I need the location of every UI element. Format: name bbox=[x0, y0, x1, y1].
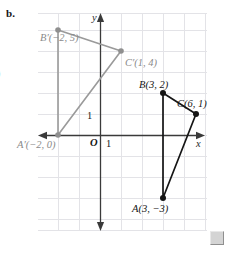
label-A: A(3, −3) bbox=[132, 204, 168, 215]
y-axis-label: y bbox=[92, 13, 97, 24]
vertex-B bbox=[160, 90, 166, 96]
label-C-prime: C′(1, 4) bbox=[125, 58, 157, 69]
vertex-A-prime bbox=[55, 132, 61, 138]
label-B-prime: B′(−2, 5) bbox=[40, 33, 79, 44]
corner-resize-handle-icon bbox=[210, 231, 224, 245]
label-C: C(6, 1) bbox=[177, 99, 207, 110]
x-unit-tick-label: 1 bbox=[106, 139, 111, 150]
vertex-A bbox=[160, 195, 166, 201]
vertex-C bbox=[193, 111, 199, 117]
origin-label: O bbox=[90, 138, 98, 149]
label-A-prime: A′(−2, 0) bbox=[17, 140, 56, 151]
x-axis-label: x bbox=[196, 139, 201, 150]
coordinate-plane-svg bbox=[0, 0, 233, 254]
y-unit-tick-label: 1 bbox=[87, 111, 92, 122]
label-B: B(3, 2) bbox=[139, 80, 168, 91]
vertex-C-prime bbox=[118, 48, 124, 54]
figure-container: b. ) bbox=[0, 0, 233, 254]
